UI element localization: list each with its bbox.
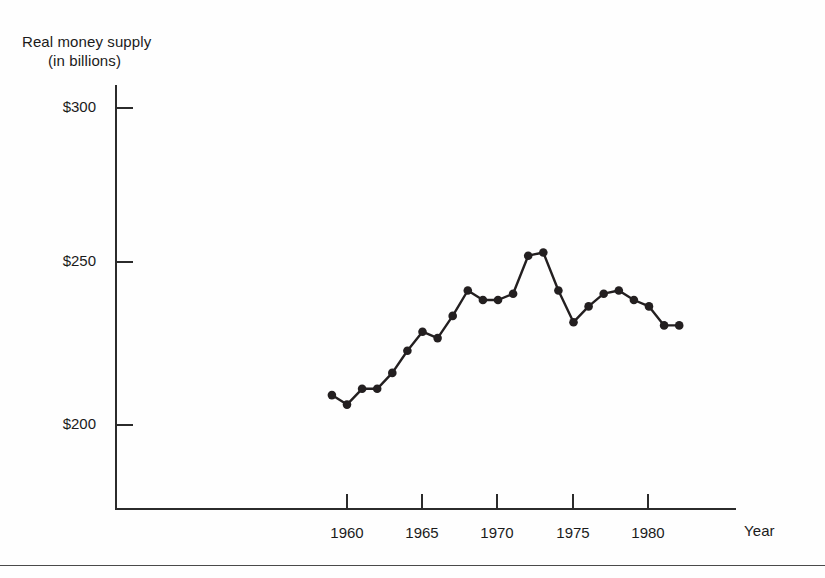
data-point (418, 327, 427, 336)
y-axis-ticks (116, 108, 133, 425)
data-point (554, 286, 563, 295)
data-point (433, 334, 442, 343)
data-point (509, 289, 518, 298)
data-point (660, 321, 669, 330)
data-point (448, 312, 457, 321)
data-point (599, 289, 608, 298)
data-series-line (332, 253, 679, 405)
data-point (358, 385, 367, 394)
data-point (388, 369, 397, 378)
data-point (615, 286, 624, 295)
data-point (630, 296, 639, 305)
footer-rule (0, 565, 825, 566)
plot-area (0, 0, 825, 578)
data-point (479, 296, 488, 305)
data-point (584, 302, 593, 311)
data-point (403, 347, 412, 356)
chart-figure: Real money supply (in billions) Year $30… (0, 0, 825, 578)
data-point (539, 248, 548, 257)
data-point (373, 385, 382, 394)
data-point (675, 321, 684, 330)
data-point (328, 391, 337, 400)
data-point (464, 286, 473, 295)
data-point (343, 400, 352, 409)
data-point (569, 318, 578, 327)
data-point (494, 296, 503, 305)
data-point (524, 251, 533, 260)
x-axis-ticks (347, 494, 648, 509)
data-point (645, 302, 654, 311)
